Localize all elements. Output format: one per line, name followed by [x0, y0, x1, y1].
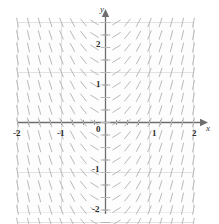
slope-field-figure: y x -2 -1 1 2 2 1 0 -1 -2: [0, 0, 219, 224]
slope-segment: [159, 218, 162, 224]
y-tick-label-neg1: -1: [92, 165, 100, 174]
origin-label: 0: [96, 125, 101, 134]
slope-segment: [81, 219, 87, 224]
slope-segment: [193, 218, 195, 224]
slope-segment: [125, 219, 131, 224]
x-tick-label-neg2: -2: [13, 129, 21, 138]
y-tick-label-neg2: -2: [92, 205, 100, 214]
slope-field-canvas: [0, 0, 219, 224]
slope-segment: [70, 219, 74, 224]
slope-segment: [170, 218, 172, 224]
slope-segment: [182, 218, 184, 224]
slope-segment: [28, 218, 30, 224]
slope-segment: [38, 218, 40, 224]
slope-segment: [17, 218, 19, 224]
slope-segment: [148, 218, 151, 224]
y-tick-label-pos1: 1: [96, 80, 101, 89]
slope-segment: [136, 219, 140, 224]
slope-segment: [49, 218, 52, 224]
slope-segment: [60, 218, 63, 224]
y-tick-label-pos2: 2: [96, 40, 101, 49]
x-tick-label-neg1: -1: [57, 129, 65, 138]
y-axis-label: y: [100, 5, 104, 14]
x-tick-label-pos1: 1: [152, 129, 157, 138]
x-axis-label: x: [206, 124, 210, 133]
x-tick-label-pos2: 2: [192, 129, 197, 138]
